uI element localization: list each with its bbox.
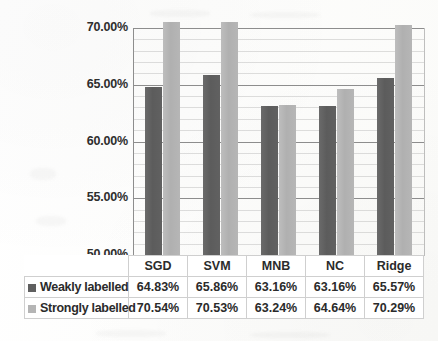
bar-group-svm xyxy=(191,28,249,255)
bar-svm-strongly-labelled xyxy=(221,22,238,255)
legend-label: Strongly labelled xyxy=(40,301,136,315)
table-value-cell: 63.24% xyxy=(247,298,306,319)
table-value-cell: 70.29% xyxy=(365,298,424,319)
table-value-cell: 64.64% xyxy=(306,298,365,319)
strong-series-swatch xyxy=(28,305,36,313)
scan-artifact xyxy=(250,12,320,18)
table-value-cell: 70.53% xyxy=(188,298,247,319)
bar-group-sgd xyxy=(133,28,191,255)
bar-sgd-strongly-labelled xyxy=(163,22,180,255)
bar-group-ridge xyxy=(366,28,424,255)
bar-sgd-weakly-labelled xyxy=(145,87,162,255)
bar-group-nc xyxy=(308,28,366,255)
y-axis-tick-label: 55.00% xyxy=(58,190,128,204)
bar-chart-figure: 50.00%55.00%60.00%65.00%70.00% SGDSVMMNB… xyxy=(0,0,438,341)
table-category-header: MNB xyxy=(247,256,306,277)
bar-svm-weakly-labelled xyxy=(203,75,220,255)
table-value-cell: 70.54% xyxy=(129,298,188,319)
plot-right-border xyxy=(424,28,425,256)
legend-entry-weakly-labelled: Weakly labelled xyxy=(25,277,129,298)
bar-nc-strongly-labelled xyxy=(337,89,354,255)
bar-ridge-strongly-labelled xyxy=(395,25,412,255)
scan-artifact xyxy=(150,10,210,17)
table-value-cell: 63.16% xyxy=(247,277,306,298)
table-category-header: NC xyxy=(306,256,365,277)
legend-label: Weakly labelled xyxy=(40,280,128,294)
table-value-cell: 65.57% xyxy=(365,277,424,298)
table-value-cell: 65.86% xyxy=(188,277,247,298)
data-table-body: SGDSVMMNBNCRidgeWeakly labelled64.83%65.… xyxy=(25,256,424,319)
table-category-header: Ridge xyxy=(365,256,424,277)
table-value-cell: 64.83% xyxy=(129,277,188,298)
table-header-row: SGDSVMMNBNCRidge xyxy=(25,256,424,277)
table-row: Strongly labelled70.54%70.53%63.24%64.64… xyxy=(25,298,424,319)
y-axis-tick-label: 70.00% xyxy=(58,20,128,34)
table-row: Weakly labelled64.83%65.86%63.16%63.16%6… xyxy=(25,277,424,298)
legend-entry-strongly-labelled: Strongly labelled xyxy=(25,298,129,319)
weak-series-swatch xyxy=(28,284,36,292)
y-axis-tick-label: 65.00% xyxy=(58,77,128,91)
table-category-header: SVM xyxy=(188,256,247,277)
bar-mnb-weakly-labelled xyxy=(261,106,278,255)
bar-nc-weakly-labelled xyxy=(319,106,336,255)
table-corner-cell xyxy=(25,256,129,277)
table-value-cell: 63.16% xyxy=(306,277,365,298)
table-category-header: SGD xyxy=(129,256,188,277)
bar-group-mnb xyxy=(249,28,307,255)
y-axis-tick-label: 60.00% xyxy=(58,134,128,148)
plot-area xyxy=(133,28,424,255)
bar-ridge-weakly-labelled xyxy=(377,78,394,255)
scan-artifact xyxy=(250,332,330,338)
data-table: SGDSVMMNBNCRidgeWeakly labelled64.83%65.… xyxy=(24,255,424,319)
bar-mnb-strongly-labelled xyxy=(279,105,296,255)
